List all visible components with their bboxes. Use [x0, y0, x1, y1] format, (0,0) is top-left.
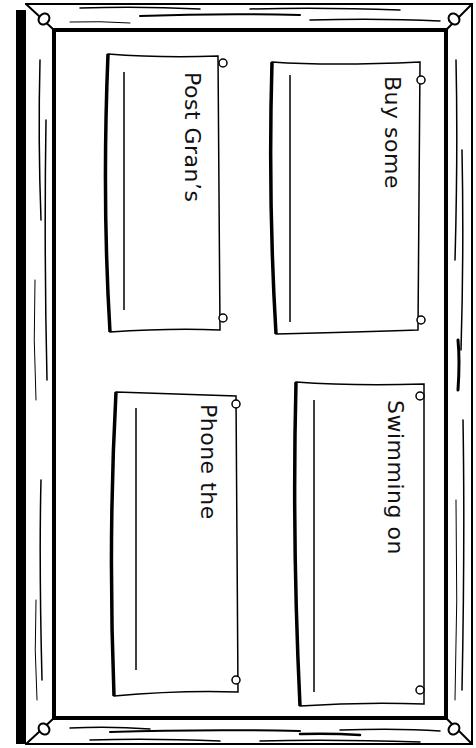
- note-text-post-grans: Post Gran’s: [180, 72, 205, 203]
- note-text-buy-some: Buy some: [380, 76, 405, 189]
- note-text-phone-the: Phone the: [196, 404, 221, 520]
- note-text-swimming-on: Swimming on: [383, 400, 408, 555]
